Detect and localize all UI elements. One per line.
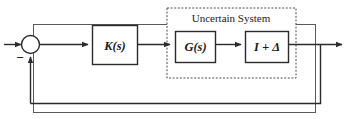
summing-junction	[22, 36, 40, 54]
feedback-minus-sign: −	[16, 50, 23, 65]
plant-block-label: G(s)	[184, 40, 206, 54]
controller-block-label: K(s)	[103, 39, 126, 53]
uncertain-system-label: Uncertain System	[192, 12, 271, 24]
uncertainty-block-label: I + Δ	[253, 40, 280, 54]
control-block-diagram: Uncertain System − K(s) G(s)	[0, 0, 350, 119]
